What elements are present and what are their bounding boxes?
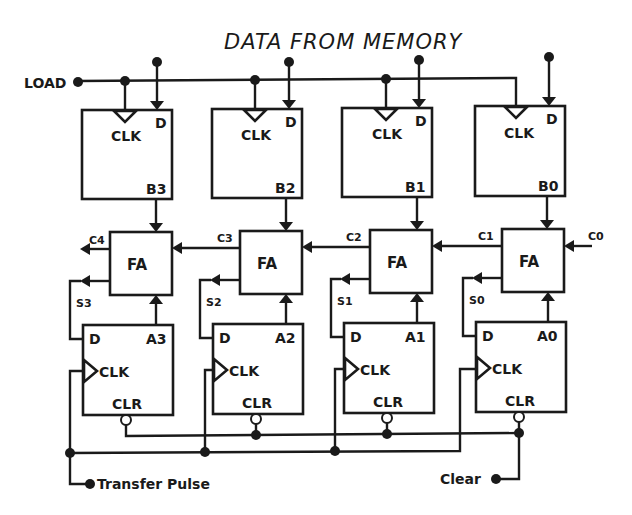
svg-text:CLK: CLK <box>241 127 272 143</box>
svg-text:CLK: CLK <box>99 364 130 380</box>
svg-text:S3: S3 <box>76 297 92 310</box>
svg-text:D: D <box>89 331 101 347</box>
svg-text:B3: B3 <box>146 181 166 197</box>
c0-label: C0 <box>588 230 604 243</box>
svg-text:S2: S2 <box>206 296 222 309</box>
b-register-b1: CLK D B1 <box>342 108 432 197</box>
full-adder-3: FA <box>110 232 172 295</box>
svg-text:B1: B1 <box>405 179 425 195</box>
b-register-b3: CLK D B3 <box>82 110 172 199</box>
svg-text:CLR: CLR <box>373 394 403 410</box>
svg-text:CLK: CLK <box>372 126 403 142</box>
svg-text:C1: C1 <box>478 230 494 243</box>
svg-text:CLK: CLK <box>492 361 523 377</box>
load-label: LOAD <box>24 75 66 91</box>
full-adder-2: FA <box>240 231 302 294</box>
svg-text:D: D <box>546 111 558 127</box>
diagram-title: DATA FROM MEMORY <box>224 30 464 54</box>
svg-text:A0: A0 <box>537 328 558 344</box>
a-register-a3: D A3 CLK CLR <box>83 325 173 425</box>
svg-text:CLK: CLK <box>111 128 142 144</box>
svg-text:FA: FA <box>257 255 278 273</box>
svg-text:D: D <box>219 330 231 346</box>
svg-text:D: D <box>350 329 362 345</box>
svg-text:D: D <box>482 328 494 344</box>
svg-text:FA: FA <box>519 253 540 271</box>
svg-text:A3: A3 <box>146 331 167 347</box>
svg-text:D: D <box>285 114 297 130</box>
svg-text:FA: FA <box>127 256 148 274</box>
svg-text:B2: B2 <box>275 180 295 196</box>
svg-text:C3: C3 <box>217 232 233 245</box>
svg-text:CLR: CLR <box>112 396 142 412</box>
b-to-fa-lines <box>149 196 554 232</box>
b-register-b2: CLK D B2 <box>212 109 302 198</box>
svg-text:FA: FA <box>387 254 408 272</box>
a-register-a0: D A0 CLK CLR <box>476 322 566 422</box>
clear-label: Clear <box>440 471 481 487</box>
svg-text:D: D <box>415 113 427 129</box>
full-adder-0: FA <box>502 229 564 292</box>
svg-text:CLK: CLK <box>504 125 535 141</box>
svg-text:C4: C4 <box>89 234 105 247</box>
svg-text:CLK: CLK <box>229 363 260 379</box>
svg-text:S0: S0 <box>469 294 485 307</box>
load-bus <box>73 74 516 110</box>
svg-text:D: D <box>155 115 167 131</box>
svg-text:A1: A1 <box>405 329 426 345</box>
a-register-a2: D A2 CLK CLR <box>213 324 303 424</box>
svg-text:C2: C2 <box>346 231 362 244</box>
svg-text:B0: B0 <box>538 178 559 194</box>
transfer-pulse-label: Transfer Pulse <box>97 476 210 492</box>
svg-text:CLR: CLR <box>505 393 535 409</box>
svg-text:A2: A2 <box>275 330 296 346</box>
svg-text:CLK: CLK <box>360 362 391 378</box>
svg-text:S1: S1 <box>337 295 353 308</box>
full-adder-1: FA <box>370 230 432 293</box>
adder-accumulator-diagram: DATA FROM MEMORY LOAD CLK D B3 <box>0 0 632 515</box>
svg-text:CLR: CLR <box>242 395 272 411</box>
b-register-b0: CLK D B0 <box>475 106 565 196</box>
a-register-a1: D A1 CLK CLR <box>344 323 434 423</box>
